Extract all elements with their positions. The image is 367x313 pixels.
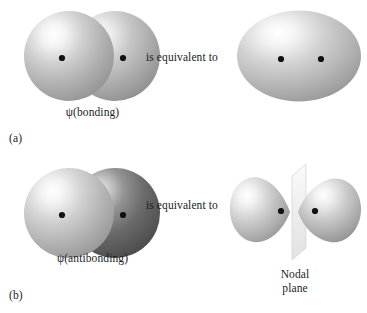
nodal-plane-label-line1: Nodal [240,267,350,281]
equivalence-label-a: is equivalent to [146,50,238,64]
panel-letter-a: (a) [9,131,22,145]
sphere-left [24,11,114,101]
panel-b: is equivalent to [0,157,367,313]
antibonding-lobes-with-nodal-plane [228,160,364,264]
ellipsoid-body [237,11,361,102]
bonding-merged-ellipsoid [236,9,362,103]
nucleus-dot-right [318,56,324,62]
nucleus-dot-right [312,208,318,214]
antibonding-overlapping-spheres [22,167,162,259]
psi-bonding-label: ψ(bonding) [0,105,185,119]
sphere-left-positive-phase [24,168,114,258]
nucleus-dot-right [120,212,126,218]
orbital-diagram-figure: is equivalent to ψ(bonding) (a) [0,0,367,313]
panel-letter-b: (b) [9,288,23,302]
lobe-right [298,178,361,242]
nucleus-dot-left [59,55,65,61]
panel-a: is equivalent to ψ(bonding) (a) [0,0,367,157]
nodal-plane-label-line2: plane [240,281,350,295]
nucleus-dot-right [120,55,126,61]
nodal-plane-label: Nodal plane [240,267,350,296]
psi-antibonding-label: ψ(antibonding) [0,251,185,265]
equivalence-label-b: is equivalent to [146,198,238,212]
nucleus-dot-left [59,212,65,218]
bonding-overlapping-spheres [22,10,162,102]
nucleus-dot-left [278,208,284,214]
nucleus-dot-left [278,56,284,62]
